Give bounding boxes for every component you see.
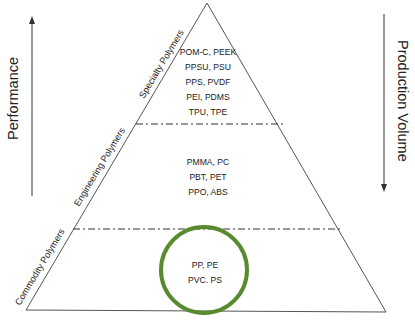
production-volume-label: Production Volume	[395, 40, 411, 162]
performance-axis: Performance	[5, 16, 35, 196]
tier-item: PMMA, PC	[187, 157, 230, 167]
tier-item: PBT, PET	[189, 172, 227, 182]
tier-item: PVC. PS	[188, 275, 222, 285]
tier-item: PPS, PVDF	[186, 77, 231, 87]
arrow-up-icon	[29, 16, 35, 24]
tier-label-specialty: Specialty Polymers	[137, 28, 186, 100]
tier-item: PEI, PDMS	[186, 92, 230, 102]
tier-specialty-items: POM-C, PEEK PPSU, PSU PPS, PVDF PEI, PDM…	[180, 47, 237, 117]
tier-label-commodity: Commodity Polymers	[13, 227, 67, 307]
tier-engineering-items: PMMA, PC PBT, PET PPO, ABS	[187, 157, 230, 197]
tier-item: PP, PE	[192, 260, 219, 270]
production-volume-axis: Production Volume	[381, 14, 411, 192]
tier-item: TPU, TPE	[189, 107, 228, 117]
tier-item: PPSU, PSU	[185, 62, 231, 72]
arrow-down-icon	[381, 184, 387, 192]
polymer-pyramid-diagram: Performance Production Volume Specialty …	[0, 0, 415, 323]
tier-item: POM-C, PEEK	[180, 47, 237, 57]
tier-item: PPO, ABS	[188, 187, 228, 197]
tier-label-engineering: Engineering Polymers	[72, 125, 127, 208]
highlight-circle	[161, 227, 247, 313]
tier-commodity-items: PP, PE PVC. PS	[188, 260, 222, 285]
performance-label: Performance	[5, 57, 21, 140]
